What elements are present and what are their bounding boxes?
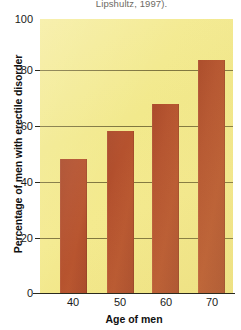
figure-caption: Lipshultz, 1997). <box>0 0 241 15</box>
x-tick-label-70: 70 <box>192 296 232 308</box>
y-tick-label-100: 100 <box>3 14 33 24</box>
y-tick-label-40: 40 <box>3 177 33 187</box>
figure-chart: Lipshultz, 1997). Percentage of men with… <box>0 0 241 330</box>
bar-age-70 <box>198 60 225 293</box>
bar-age-40 <box>60 159 87 293</box>
bar-age-50 <box>107 131 134 293</box>
y-axis-tick-labels: 100 80 60 40 20 0 <box>0 0 33 330</box>
x-axis-label: Age of men <box>33 313 235 325</box>
bar-age-60 <box>152 104 179 293</box>
y-tick-label-80: 80 <box>3 65 33 75</box>
y-tick-label-20: 20 <box>3 233 33 243</box>
y-tick-label-60: 60 <box>3 121 33 131</box>
y-tick-label-0: 0 <box>3 288 33 298</box>
x-tick-label-40: 40 <box>53 296 93 308</box>
x-tick-label-50: 50 <box>100 296 140 308</box>
x-axis-line <box>33 293 235 294</box>
plot-area <box>40 19 233 293</box>
x-tick-label-60: 60 <box>146 296 186 308</box>
figure-caption-text: Lipshultz, 1997). <box>96 0 167 9</box>
x-axis-tick-labels: 40 50 60 70 <box>40 296 233 312</box>
